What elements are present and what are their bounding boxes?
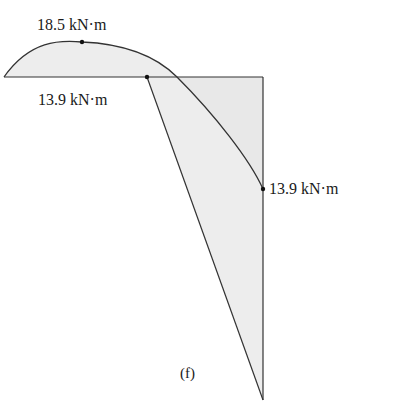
peak-moment-label: 18.5 kN·m: [37, 17, 106, 33]
parabola-region: [4, 41, 177, 77]
right-dot: [261, 187, 265, 191]
base-dot: [145, 75, 149, 79]
moment-diagram: [0, 0, 407, 404]
base-moment-label: 13.9 kN·m: [38, 92, 107, 108]
figure-caption: (f): [180, 366, 195, 381]
right-moment-label: 13.9 kN·m: [269, 181, 338, 197]
peak-dot: [80, 40, 84, 44]
